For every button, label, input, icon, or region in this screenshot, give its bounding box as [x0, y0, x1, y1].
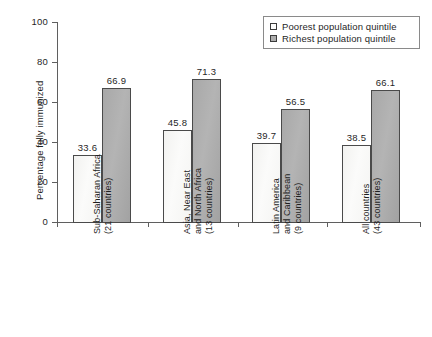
y-axis-tick — [52, 62, 57, 63]
legend-item-poorest[interactable]: Poorest population quintile — [270, 21, 414, 32]
x-axis-category-label-latin-america-caribbean: Latin America and Caribbean (9 countries… — [271, 174, 304, 234]
category-label-line: All countries — [361, 178, 372, 234]
y-axis-tick-label: 40 — [12, 137, 48, 147]
category-label-line: and North Africa — [193, 168, 204, 234]
legend-swatch-poorest-icon — [270, 23, 277, 30]
chart-container: Percentage fully immunized 100 80 60 40 … — [0, 0, 432, 337]
bar-value-richest-all-countries: 66.1 — [364, 78, 407, 88]
x-axis-category-label-asia-near-east-north-africa: Asia, Near East and North Africa (13 cou… — [182, 168, 215, 234]
y-axis-line — [57, 22, 58, 223]
category-label-line: Latin America — [271, 174, 282, 234]
legend-item-richest[interactable]: Richest population quintile — [270, 33, 414, 44]
y-axis-tick-label: 20 — [12, 177, 48, 187]
x-axis-tick — [420, 222, 421, 227]
x-axis-tick — [238, 222, 239, 227]
bar-value-richest-asia-near-east-north-africa: 71.3 — [185, 67, 228, 77]
y-axis-tick — [52, 102, 57, 103]
x-axis-tick — [57, 222, 58, 227]
legend-label-poorest: Poorest population quintile — [282, 22, 397, 32]
y-axis-tick — [52, 182, 57, 183]
y-axis-tick — [52, 22, 57, 23]
x-axis-tick — [148, 222, 149, 227]
y-axis-tick-label: 0 — [12, 217, 48, 227]
legend-swatch-richest-icon — [270, 35, 277, 42]
chart-legend: Poorest population quintile Richest popu… — [263, 16, 420, 49]
y-axis-tick-label: 60 — [12, 97, 48, 107]
category-label-line: Sub-Saharan Africa — [92, 154, 103, 234]
y-axis-tick-label: 80 — [12, 57, 48, 67]
category-label-line: and Caribbean — [282, 174, 293, 234]
bar-value-richest-latin-america-caribbean: 56.5 — [274, 97, 317, 107]
category-label-line: (21 countries) — [103, 154, 114, 234]
bar-value-richest-sub-saharan-africa: 66.9 — [95, 76, 138, 86]
category-label-line: (13 countries) — [204, 168, 215, 234]
category-label-line: (43 countries) — [372, 178, 383, 234]
category-label-line: (9 countries) — [293, 174, 304, 234]
category-label-line: Asia, Near East — [182, 168, 193, 234]
x-axis-tick — [327, 222, 328, 227]
y-axis-tick — [52, 142, 57, 143]
y-axis-tick-label: 100 — [12, 17, 48, 27]
x-axis-category-label-sub-saharan-africa: Sub-Saharan Africa (21 countries) — [92, 154, 114, 234]
x-axis-category-label-all-countries: All countries (43 countries) — [361, 178, 383, 234]
legend-label-richest: Richest population quintile — [282, 34, 396, 44]
